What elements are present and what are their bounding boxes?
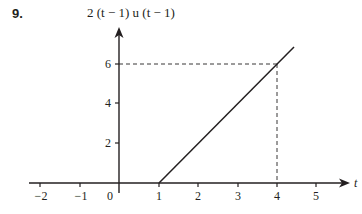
ramp-function-plot: −2 −1 0 1 2 3 4 5 t 6 4 2: [0, 0, 362, 214]
y-tick-label: 4: [105, 96, 111, 110]
x-tick-label: 5: [313, 189, 319, 203]
x-tick-label: 0: [107, 189, 113, 203]
ramp-line: [159, 47, 294, 183]
x-tick-label: 1: [156, 189, 162, 203]
x-tick-label: −1: [75, 189, 88, 203]
x-axis-label: t: [354, 176, 358, 190]
x-tick-label: 4: [274, 189, 280, 203]
y-tick-label: 2: [105, 136, 111, 150]
x-tick-label: −2: [35, 189, 48, 203]
y-tick-label: 6: [105, 57, 111, 71]
x-tick-label: 2: [195, 189, 201, 203]
x-tick-label: 3: [235, 189, 241, 203]
